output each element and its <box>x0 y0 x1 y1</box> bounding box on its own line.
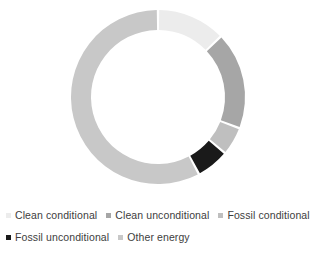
donut-slices <box>71 10 245 184</box>
legend-item[interactable]: Clean unconditional <box>106 209 209 222</box>
legend-swatch-icon <box>106 213 111 218</box>
donut-chart <box>0 0 316 196</box>
legend-item-label: Fossil conditional <box>227 209 309 222</box>
legend-item[interactable]: Fossil conditional <box>218 209 309 222</box>
legend-swatch-icon <box>118 235 123 240</box>
donut-slice <box>159 10 220 50</box>
legend-item-label: Other energy <box>127 231 189 244</box>
legend-swatch-icon <box>218 213 223 218</box>
legend-swatch-icon <box>6 213 11 218</box>
legend-item-label: Clean conditional <box>15 209 97 222</box>
donut-slice <box>207 37 245 127</box>
legend-swatch-icon <box>6 235 11 240</box>
legend-item-label: Fossil unconditional <box>15 231 109 244</box>
legend-item[interactable]: Other energy <box>118 231 189 244</box>
legend-row: Clean conditionalClean unconditionalFoss… <box>6 204 312 226</box>
donut-slice <box>71 10 198 184</box>
legend-row: Fossil unconditionalOther energy <box>6 226 312 248</box>
legend-item-label: Clean unconditional <box>115 209 209 222</box>
legend-item[interactable]: Clean conditional <box>6 209 97 222</box>
donut-chart-svg <box>0 0 316 196</box>
chart-legend: Clean conditionalClean unconditionalFoss… <box>0 198 316 261</box>
legend-item[interactable]: Fossil unconditional <box>6 231 109 244</box>
